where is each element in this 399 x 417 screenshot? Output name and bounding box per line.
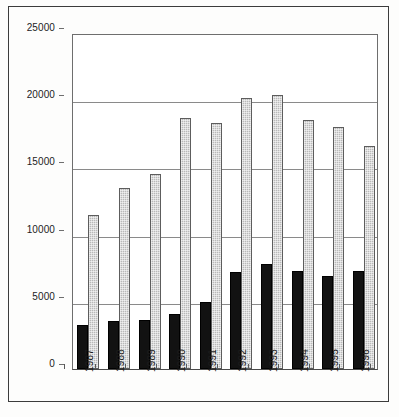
bar-series-light-1988 — [119, 188, 130, 369]
bar-series-light-1996 — [364, 146, 375, 369]
bar-series-light-1995 — [333, 127, 344, 369]
x-axis-tick-mark — [64, 364, 65, 369]
y-axis-label: 15000 — [9, 156, 55, 167]
x-axis-label-1994: 1994 — [299, 349, 310, 372]
x-axis-label-1993: 1993 — [268, 349, 279, 372]
bar-series-light-1990 — [180, 118, 191, 369]
bar-series-light-1987 — [88, 215, 99, 369]
chart-figure: 0500010000150002000025000198719881989199… — [0, 0, 399, 417]
x-axis-label-1988: 1988 — [115, 349, 126, 372]
chart-outer-frame: 0500010000150002000025000198719881989199… — [8, 6, 389, 402]
y-axis-tick-mark — [59, 230, 64, 231]
x-axis-tick-mark — [248, 364, 249, 369]
gridline — [73, 102, 377, 103]
bar-series-light-1992 — [241, 98, 252, 369]
y-axis-tick-mark — [59, 162, 64, 163]
x-axis-label-1987: 1987 — [84, 349, 95, 372]
bar-series-light-1994 — [303, 120, 314, 369]
y-axis-label: 20000 — [9, 89, 55, 100]
y-axis-tick-mark — [59, 95, 64, 96]
x-axis-label-1990: 1990 — [176, 349, 187, 372]
y-axis-label: 10000 — [9, 224, 55, 235]
x-axis-label-1996: 1996 — [360, 349, 371, 372]
x-axis-label-1995: 1995 — [329, 349, 340, 372]
x-axis-label-1989: 1989 — [146, 349, 157, 372]
bar-series-light-1991 — [211, 123, 222, 369]
plot-area — [72, 34, 378, 370]
gridline — [73, 169, 377, 170]
y-axis-label: 5000 — [9, 291, 55, 302]
bar-series-light-1989 — [150, 174, 161, 369]
x-axis-label-1992: 1992 — [237, 349, 248, 372]
y-axis-label: 25000 — [9, 22, 55, 33]
x-axis-tick-mark — [95, 364, 96, 369]
x-axis-label-1991: 1991 — [207, 349, 218, 372]
y-axis-label: 0 — [9, 358, 55, 369]
y-axis-tick-mark — [59, 297, 64, 298]
bar-series-light-1993 — [272, 95, 283, 369]
y-axis-tick-mark — [59, 28, 64, 29]
